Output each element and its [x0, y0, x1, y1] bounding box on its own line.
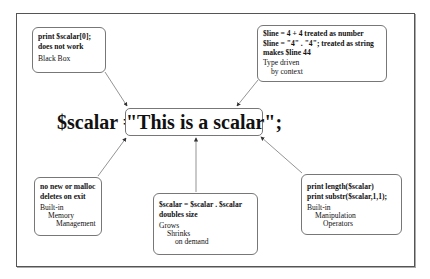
scalar-string-value: "This is a scalar"; [125, 108, 263, 136]
note-black-box: print $scalar[0]; does not work Black Bo… [32, 27, 106, 73]
note-code-line: no new or malloc [40, 182, 96, 192]
note-code-line: $line = "4" . "4"; treated as string [263, 39, 381, 49]
note-code-line: does not work [38, 42, 100, 52]
note-label: Black Box [38, 54, 100, 64]
note-code-line: print length($scalar) [307, 182, 396, 192]
note-memory-management: no new or malloc deletes on exit Built-i… [34, 177, 102, 236]
note-code-line: deletes on exit [40, 192, 96, 202]
note-grows-shrinks: $scalar = $scalar . $scalar doubles size… [153, 193, 258, 255]
note-label: Management [40, 220, 96, 228]
scalar-variable: $scalar = [57, 110, 134, 134]
note-code-line: $line = 4 + 4 treated as number [263, 29, 381, 39]
note-type-driven: $line = 4 + 4 treated as number $line = … [257, 25, 387, 82]
note-label: Type driven [263, 58, 381, 68]
note-code-line: print $scalar[0]; [38, 32, 100, 42]
note-code-line: makes $line 44 [263, 48, 381, 58]
note-manipulation-operators: print length($scalar) print substr($scal… [301, 174, 402, 235]
note-label: by context [263, 67, 381, 77]
note-code-line: $scalar = $scalar . $scalar [159, 200, 252, 210]
note-code-line: print substr($scalar,1,1); [307, 192, 396, 202]
note-label: on demand [159, 238, 252, 246]
note-code-line: doubles size [159, 210, 252, 220]
note-label: Operators [307, 220, 396, 228]
